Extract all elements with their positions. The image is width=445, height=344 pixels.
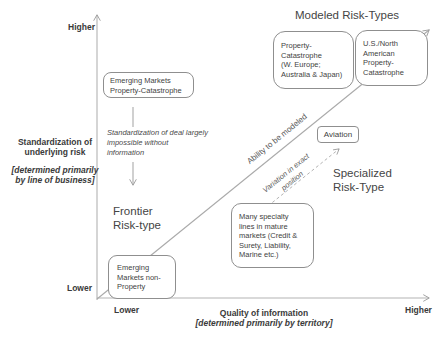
y-axis-sublabel: [determined primarily by line of busines…	[8, 165, 102, 185]
specialized-risk-type-label: Specialized Risk-Type	[333, 167, 392, 194]
diagram-title: Modeled Risk-Types	[290, 9, 404, 23]
us-north-american-property-catastrophe-box: U.S./North American Property- Catastroph…	[355, 30, 428, 86]
x-axis-label: Quality of information	[179, 308, 349, 318]
aviation-box: Aviation	[317, 126, 359, 143]
frontier-risk-type-label: Frontier Risk-type	[113, 205, 161, 232]
y-axis-higher-label: Higher	[59, 22, 95, 32]
x-axis-sublabel: [determined primarily by territory]	[179, 318, 349, 328]
standardization-note: Standardization of deal largely impossib…	[107, 128, 229, 158]
property-catastrophe-europe-box: Property- Catastrophe (W. Europe; Austra…	[273, 31, 354, 89]
specialty-lines-box: Many specialty lines in mature markets (…	[231, 203, 314, 268]
y-axis-label: Standardization of underlying risk	[8, 137, 102, 157]
emerging-markets-property-catastrophe-box: Emerging Markets Property-Catastrophe	[103, 72, 194, 98]
x-axis-lower-label: Lower	[114, 305, 139, 315]
risk-types-diagram: Modeled Risk-Types Higher Lower Lower Hi…	[0, 0, 445, 344]
emerging-markets-non-property-box: Emerging Markets non- Property	[108, 255, 176, 299]
x-axis-higher-label: Higher	[405, 305, 432, 315]
y-axis-lower-label: Lower	[56, 283, 92, 293]
